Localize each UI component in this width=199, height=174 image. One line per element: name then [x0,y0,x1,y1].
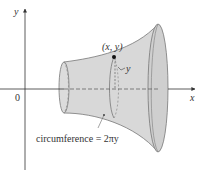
origin-label: 0 [15,92,20,103]
radius-label: y [125,63,131,74]
x-axis-label: x [189,92,195,103]
point-label: (x, y) [102,41,123,53]
pointer-dot [103,114,105,116]
circumference-label: circumference = 2πy [36,133,119,144]
left-end-ellipse [59,62,69,113]
surface-of-revolution-diagram: y x 0 (x, y) y circumference = 2πy [0,0,199,174]
y-axis-label: y [13,6,19,17]
point-marker [112,55,116,59]
